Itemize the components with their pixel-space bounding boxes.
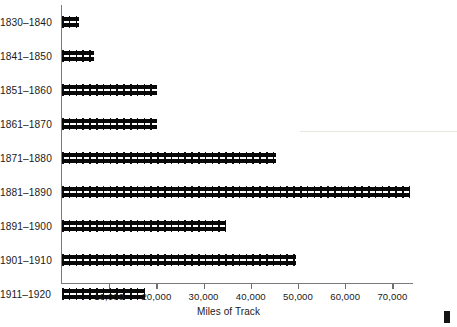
category-label: 1901–1910 [0,255,55,266]
x-axis-title: Miles of Track [0,306,457,317]
chart-row: 1841–1850 [0,39,457,73]
plot-area: 1830–18401841–18501851–18601861–18701871… [0,0,457,327]
x-axis-tick [156,284,157,289]
railroad-track-bar-chart: 1830–18401841–18501851–18601861–18701871… [0,0,457,327]
x-axis-tick [298,284,299,289]
track-rail-top [62,187,410,190]
track-rail-top [62,85,157,88]
track-rail-bottom [62,227,226,230]
track-rail-bottom [62,261,296,264]
x-axis-tick [109,284,110,289]
track-bar [62,16,79,28]
chart-row: 1830–1840 [0,5,457,39]
track-rail-top [62,51,94,54]
category-label: 1911–1920 [0,289,55,300]
track-bar [62,152,276,164]
track-rail-top [62,255,296,258]
track-rail-top [62,221,226,224]
x-axis-tick [251,284,252,289]
track-rail-bottom [62,159,276,162]
category-label: 1851–1860 [0,85,55,96]
category-label: 1891–1900 [0,221,55,232]
track-bar [62,118,157,130]
chart-row: 1871–1880 [0,141,457,175]
track-bar [62,220,226,232]
x-axis-tick-label: 60,000 [330,291,360,302]
page-corner-mark [444,311,450,323]
x-axis-tick-label: 20,000 [141,291,171,302]
chart-row: 1881–1890 [0,175,457,209]
track-rail-bottom [62,57,94,60]
x-axis-tick [204,284,205,289]
x-axis-tick-label: 10,000 [94,291,124,302]
category-label: 1881–1890 [0,187,55,198]
track-bar [62,254,296,266]
track-bar [62,84,157,96]
category-label: 1830–1840 [0,17,55,28]
category-label: 1871–1880 [0,153,55,164]
track-rail-top [62,119,157,122]
x-axis-tick [345,284,346,289]
track-rail-bottom [62,23,79,26]
track-rail-top [62,17,79,20]
category-label: 1841–1850 [0,51,55,62]
category-label: 1861–1870 [0,119,55,130]
track-rail-bottom [62,193,410,196]
track-rail-bottom [62,125,157,128]
track-rail-bottom [62,91,157,94]
chart-row: 1851–1860 [0,73,457,107]
x-axis-tick-label: 40,000 [236,291,266,302]
x-axis-tick-label: 70,000 [377,291,407,302]
x-axis-tick-label: 50,000 [283,291,313,302]
x-axis-tick [392,284,393,289]
chart-row: 1861–1870 [0,107,457,141]
chart-row: 1901–1910 [0,243,457,277]
chart-row: 1891–1900 [0,209,457,243]
track-bar [62,50,94,62]
x-axis-tick-label: 30,000 [189,291,219,302]
track-bar [62,186,410,198]
track-rail-top [62,153,276,156]
